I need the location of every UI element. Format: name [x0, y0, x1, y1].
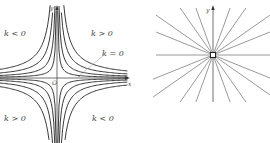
- k-zero-leader-line: [80, 55, 104, 75]
- hyperbola-branch: [0, 6, 55, 76]
- label-k-zero: k = 0: [102, 49, 124, 58]
- hyperbola-branch: [64, 5, 128, 71]
- hyperbola-branch: [65, 85, 127, 140]
- label-bottom-right: k < 0: [92, 114, 114, 123]
- hyperbola-branch: [0, 80, 55, 143]
- y-axis-label: y: [49, 4, 54, 12]
- left-figure: x y O k < 0 k > 0 k = 0 k > 0 k < 0: [0, 4, 132, 143]
- label-top-right: k > 0: [91, 29, 113, 38]
- figure-canvas: x y O k < 0 k > 0 k = 0 k > 0 k < 0 y: [0, 0, 270, 143]
- x-axis-label: x: [128, 80, 132, 87]
- origin-label: O: [52, 79, 57, 86]
- hyperbola-branch: [0, 86, 49, 140]
- hyperbola-branch: [0, 83, 53, 143]
- hyperbola-branch: [58, 79, 128, 143]
- right-y-axis-arrow-icon: [211, 5, 214, 10]
- right-figure: y: [153, 5, 270, 102]
- y-axis-arrow-icon: [55, 5, 58, 10]
- label-bottom-left: k > 0: [4, 114, 26, 123]
- hyperbola-branch: [59, 80, 127, 143]
- origin-marker: [211, 53, 216, 58]
- point-marker: [78, 75, 79, 76]
- hyperbola-branch: [59, 6, 127, 76]
- hyperbola-branch: [0, 13, 53, 74]
- hyperbola-branch: [58, 11, 128, 78]
- label-top-left: k < 0: [4, 29, 26, 38]
- hyperbola-branch: [0, 11, 56, 78]
- right-y-axis-label: y: [205, 6, 210, 14]
